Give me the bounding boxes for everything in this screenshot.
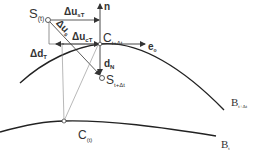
- label-s-t-dt: St+Δt: [106, 73, 125, 88]
- point-s-t: [46, 18, 51, 23]
- label-b-t-dt: Bt+Δt: [231, 96, 248, 109]
- point-s-t-dt: [100, 76, 105, 81]
- point-c-t-dt: [98, 42, 102, 46]
- contact-kinematics-diagram: S(t) n ΔusT Δus ΔucT Ct+Δt eo ΔdT dN St+…: [0, 0, 257, 152]
- boundary-curve-b-t: [0, 121, 216, 136]
- c-t-diagonal-line: [64, 45, 98, 121]
- label-b-t: Bt: [221, 138, 230, 151]
- label-dd-T: ΔdT: [30, 48, 47, 60]
- label-du-cT: ΔucT: [72, 31, 93, 43]
- c-t-vertical-line: [62, 44, 64, 121]
- label-e-o: eo: [148, 41, 157, 53]
- du-s-arrow: [50, 22, 100, 75]
- label-d-N: dN: [104, 58, 114, 70]
- label-du-sT: ΔusT: [64, 6, 85, 18]
- label-c-t-dt: Ct+Δt: [103, 31, 123, 46]
- label-n: n: [104, 1, 110, 12]
- point-c-t: [62, 119, 66, 123]
- label-du-s: Δus: [53, 17, 74, 38]
- label-s-t: S(t): [29, 6, 44, 23]
- label-c-t: C(t): [78, 128, 92, 143]
- boundary-curve-b-t-dt: [20, 44, 224, 110]
